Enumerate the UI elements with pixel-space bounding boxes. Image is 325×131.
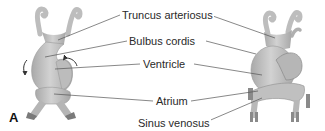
label-bulbus-cordis: Bulbus cordis xyxy=(128,35,196,47)
label-sinus-venosus: Sinus venosus xyxy=(137,117,211,129)
right-looped-heart xyxy=(248,13,310,122)
left-heart-tube xyxy=(26,9,80,120)
label-truncus-arteriosus: Truncus arteriosus xyxy=(121,9,214,21)
label-ventricle: Ventricle xyxy=(142,58,186,70)
heart-development-diagram: Truncus arteriosus Bulbus cordis Ventric… xyxy=(0,0,325,131)
panel-label: A xyxy=(9,110,18,125)
label-atrium: Atrium xyxy=(155,95,189,107)
